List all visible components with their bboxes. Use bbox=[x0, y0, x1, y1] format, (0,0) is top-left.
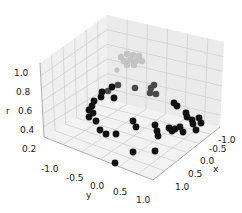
x-axis-label: x bbox=[213, 164, 219, 174]
z-tick: 0.8 bbox=[16, 87, 31, 97]
data-point bbox=[97, 127, 104, 134]
data-point bbox=[113, 131, 120, 138]
data-point bbox=[190, 121, 197, 128]
data-point bbox=[193, 127, 200, 134]
data-point bbox=[109, 84, 116, 91]
data-point bbox=[151, 82, 158, 89]
data-point bbox=[152, 122, 159, 129]
y-tick: -0.5 bbox=[66, 173, 84, 183]
data-point bbox=[115, 82, 122, 89]
data-point bbox=[124, 51, 130, 57]
z-tick: 0.6 bbox=[18, 106, 33, 116]
scatter-3d-plot: 1.0 0.8 0.6 0.4 0.2 r -1.0 -0.5 0.0 0.5 … bbox=[0, 0, 242, 213]
data-point bbox=[103, 131, 110, 138]
data-point bbox=[133, 124, 140, 131]
data-point bbox=[112, 160, 119, 167]
y-tick: 0.5 bbox=[113, 187, 127, 197]
data-point bbox=[130, 118, 137, 125]
data-point bbox=[152, 148, 159, 155]
axes-panes bbox=[40, 15, 224, 180]
x-tick: 0.5 bbox=[188, 169, 202, 179]
data-point bbox=[130, 149, 137, 156]
y-tick: 1.0 bbox=[136, 195, 151, 205]
data-point bbox=[198, 120, 205, 127]
data-point bbox=[86, 114, 93, 121]
y-axis-label: y bbox=[86, 190, 92, 200]
data-point bbox=[111, 95, 118, 102]
y-tick: 0.0 bbox=[90, 181, 105, 191]
z-axis: 1.0 0.8 0.6 0.4 0.2 r bbox=[6, 68, 36, 154]
x-tick: 1.0 bbox=[175, 182, 190, 192]
data-point bbox=[180, 129, 187, 136]
data-point bbox=[124, 62, 130, 68]
data-point bbox=[114, 67, 119, 72]
z-axis-label: r bbox=[6, 106, 10, 116]
data-point bbox=[132, 85, 139, 92]
z-tick: 1.0 bbox=[14, 68, 29, 78]
data-point bbox=[147, 90, 154, 97]
data-point bbox=[139, 58, 145, 64]
x-tick: -0.5 bbox=[209, 144, 227, 154]
data-point bbox=[131, 62, 137, 68]
data-point bbox=[155, 133, 162, 140]
y-tick: -1.0 bbox=[41, 164, 59, 174]
data-point bbox=[93, 118, 100, 125]
data-point bbox=[153, 91, 160, 98]
z-tick: 0.4 bbox=[20, 125, 35, 135]
data-point bbox=[98, 94, 105, 101]
data-point bbox=[174, 103, 181, 110]
z-tick: 0.2 bbox=[22, 144, 36, 154]
